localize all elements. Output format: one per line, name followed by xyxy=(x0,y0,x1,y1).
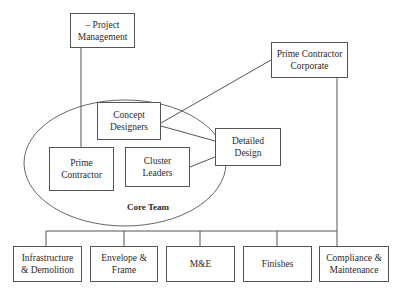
infrastructure-node: Infrastructure & Demolition xyxy=(13,246,82,282)
core-team-label: Core Team xyxy=(127,202,169,212)
prime-contractor-node: Prime Contractor xyxy=(49,147,114,191)
m-and-e-node: M&E xyxy=(166,246,235,282)
concept-designers-node: Concept Designers xyxy=(97,102,161,140)
prime-contractor-corporate-node: Prime Contractor Corporate xyxy=(271,42,348,78)
detailed-design-node: Detailed Design xyxy=(215,128,281,166)
project-management-node: – Project Management xyxy=(70,13,135,48)
finishes-node: Finishes xyxy=(243,246,312,282)
compliance-maintenance-node: Compliance & Maintenance xyxy=(319,246,389,282)
cluster-leaders-node: Cluster Leaders xyxy=(125,147,190,187)
envelope-frame-node: Envelope & Frame xyxy=(90,246,158,282)
